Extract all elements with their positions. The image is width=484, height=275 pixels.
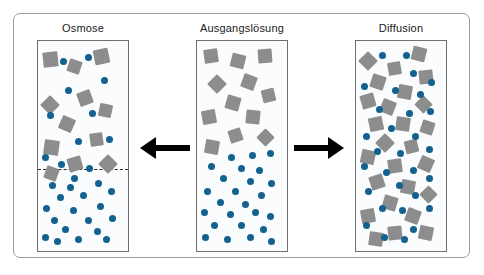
solute-square <box>207 74 227 94</box>
solvent-dot <box>54 238 61 245</box>
solvent-dot <box>43 205 50 212</box>
solvent-dot <box>232 188 239 195</box>
solute-square <box>66 58 82 74</box>
solvent-dot <box>95 180 102 187</box>
solute-square <box>410 46 427 63</box>
solvent-dot <box>94 228 101 235</box>
solvent-dot <box>406 110 413 117</box>
solute-square <box>419 119 435 135</box>
solvent-dot <box>247 234 254 241</box>
solvent-dot <box>208 163 215 170</box>
solvent-dot <box>397 150 404 157</box>
solute-square <box>397 84 413 100</box>
solute-square <box>43 165 60 182</box>
solute-square <box>419 185 437 203</box>
solute-square <box>358 51 378 71</box>
solvent-dot <box>260 226 267 233</box>
solvent-dot <box>412 192 419 199</box>
solvent-dot <box>228 154 235 161</box>
solvent-dot <box>47 112 54 119</box>
solvent-dot <box>51 217 58 224</box>
solvent-dot <box>403 52 410 59</box>
solvent-dot <box>426 146 433 153</box>
solvent-dot <box>202 234 209 241</box>
solvent-dot <box>426 205 433 212</box>
solvent-dot <box>109 215 116 222</box>
solvent-dot <box>361 83 368 90</box>
solute-square <box>57 114 75 132</box>
solvent-dot <box>75 236 82 243</box>
solvent-dot <box>388 125 395 132</box>
solute-square <box>258 49 273 64</box>
solvent-dot <box>379 52 386 59</box>
solvent-dot <box>401 236 408 243</box>
solute-square <box>203 48 219 64</box>
solvent-dot <box>106 136 113 143</box>
solvent-dot <box>379 205 386 212</box>
solvent-dot <box>247 178 254 185</box>
solvent-dot <box>65 87 72 94</box>
solute-square <box>395 116 411 132</box>
panel-osmose: Osmose <box>37 22 129 252</box>
arrow-right-shaft <box>294 145 330 151</box>
solvent-dot <box>71 175 78 182</box>
solvent-dot <box>383 169 390 176</box>
solvent-dot <box>256 167 263 174</box>
solute-square <box>204 139 220 155</box>
solute-square <box>417 154 435 172</box>
solute-square <box>387 61 402 76</box>
solvent-dot <box>374 148 381 155</box>
panel-diffusion: Diffusion <box>355 22 447 252</box>
solvent-dot <box>86 165 93 172</box>
solvent-dot <box>238 165 245 172</box>
solute-square <box>98 103 113 118</box>
solvent-dot <box>238 222 245 229</box>
panel-label-diffusion: Diffusion <box>355 22 447 34</box>
solute-square <box>43 51 59 67</box>
solute-square <box>260 88 276 104</box>
solvent-dot <box>242 201 249 208</box>
solute-square <box>367 115 384 132</box>
solvent-dot <box>363 222 370 229</box>
vessel-ausgangsloesung <box>196 40 288 252</box>
solvent-dot <box>363 133 370 140</box>
solvent-dot <box>258 192 265 199</box>
solute-square <box>43 139 60 156</box>
solvent-dot <box>412 133 419 140</box>
solvent-dot <box>217 199 224 206</box>
solute-square <box>76 89 94 107</box>
solvent-dot <box>410 70 417 77</box>
solute-square <box>360 92 377 109</box>
solvent-dot <box>220 175 227 182</box>
solvent-dot <box>252 209 259 216</box>
solute-square <box>403 138 419 154</box>
solvent-dot <box>60 58 67 65</box>
solute-square <box>228 127 244 143</box>
solvent-dot <box>381 234 388 241</box>
solvent-dot <box>103 236 110 243</box>
solvent-dot <box>58 161 65 168</box>
solute-square <box>240 73 258 91</box>
arrow-right-head <box>328 137 344 159</box>
solute-square <box>404 207 422 225</box>
vessel-osmose <box>37 40 129 252</box>
solute-square <box>245 110 260 125</box>
solute-square <box>66 155 83 172</box>
solvent-dot <box>101 77 108 84</box>
solute-square <box>256 129 274 147</box>
solvent-dot <box>396 182 403 189</box>
solvent-dot <box>67 184 74 191</box>
arrow-right-icon <box>294 137 344 159</box>
solvent-dot <box>80 192 87 199</box>
vessel-diffusion <box>355 40 447 252</box>
solvent-dot <box>268 238 275 245</box>
solvent-dot <box>268 180 275 187</box>
solvent-dot <box>204 188 211 195</box>
panel-ausgangsloesung: Ausgangslösung <box>196 22 288 252</box>
solvent-dot <box>410 226 417 233</box>
solute-square <box>89 133 104 148</box>
solvent-dot <box>224 236 231 243</box>
solvent-dot <box>62 226 69 233</box>
solvent-dot <box>75 138 82 145</box>
diagram-canvas: Osmose Ausgangslösung Diffusion <box>0 0 484 275</box>
